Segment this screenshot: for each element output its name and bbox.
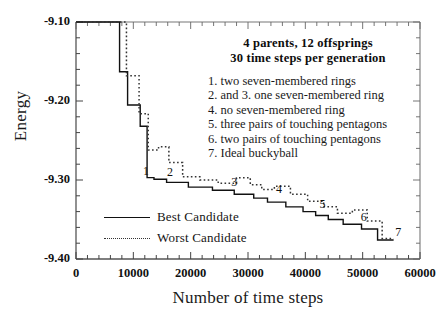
x-tick-label: 0 bbox=[73, 266, 79, 281]
x-tick-label: 60000 bbox=[404, 266, 435, 281]
annotation-block: 4 parents, 12 offsprings 30 time steps p… bbox=[196, 36, 420, 160]
x-tick-label: 50000 bbox=[347, 266, 378, 281]
annotation-headline-2: 30 time steps per generation bbox=[196, 51, 420, 66]
x-tick-label: 30000 bbox=[232, 266, 263, 281]
point-marker: 6 bbox=[361, 210, 367, 225]
point-marker: 7 bbox=[395, 225, 401, 240]
point-marker: 4 bbox=[276, 182, 282, 197]
point-marker: 5 bbox=[320, 196, 326, 211]
annotation-item: 1. two seven-membered rings bbox=[208, 74, 420, 88]
point-marker: 3 bbox=[231, 174, 237, 189]
point-marker: 2 bbox=[167, 165, 173, 180]
dotted-line-key-icon bbox=[104, 233, 150, 243]
point-marker: 1 bbox=[143, 163, 149, 178]
annotation-list: 1. two seven-membered rings2. and 3. one… bbox=[196, 74, 420, 160]
annotation-item: 4. no seven-membered ring bbox=[208, 103, 420, 117]
legend-label: Worst Candidate bbox=[157, 230, 247, 246]
annotation-item: 7. Ideal buckyball bbox=[208, 146, 420, 160]
chart-legend: Best CandidateWorst Candidate bbox=[104, 206, 284, 248]
legend-entry: Worst Candidate bbox=[104, 227, 284, 248]
annotation-item: 5. three pairs of touching pentagons bbox=[208, 117, 420, 131]
legend-entry: Best Candidate bbox=[104, 206, 284, 227]
y-tick-label: -9.10 bbox=[8, 14, 70, 29]
y-tick-label: -9.20 bbox=[8, 93, 70, 108]
x-tick-label: 20000 bbox=[175, 266, 206, 281]
x-tick-label: 10000 bbox=[118, 266, 149, 281]
y-axis-title: Energy bbox=[11, 71, 31, 161]
y-tick-label: -9.30 bbox=[8, 172, 70, 187]
annotation-item: 2. and 3. one seven-membered ring bbox=[208, 88, 420, 102]
energy-convergence-chart: Energy Number of time steps -9.10-9.20-9… bbox=[0, 0, 447, 321]
x-tick-label: 40000 bbox=[290, 266, 321, 281]
legend-label: Best Candidate bbox=[157, 209, 239, 225]
x-axis-title: Number of time steps bbox=[76, 288, 420, 308]
solid-line-key-icon bbox=[104, 212, 150, 222]
y-tick-label: -9.40 bbox=[8, 251, 70, 266]
annotation-headline-1: 4 parents, 12 offsprings bbox=[196, 36, 420, 51]
annotation-item: 6. two pairs of touching pentagons bbox=[208, 132, 420, 146]
